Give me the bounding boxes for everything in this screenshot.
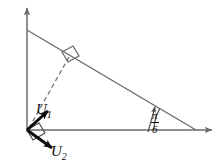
angle-label-numerator: π xyxy=(151,110,159,122)
vector-label-u1: U1 xyxy=(36,101,52,120)
vector-label-u2: U2 xyxy=(51,143,67,162)
vector-u2 xyxy=(27,130,52,148)
angle-label-denominator: 6 xyxy=(151,123,159,135)
vector-label-u1-name: U xyxy=(36,101,47,117)
figure-canvas xyxy=(0,0,223,168)
geometry-figure: U1 U2 π 6 xyxy=(0,0,223,168)
vector-label-u1-subscript: 1 xyxy=(47,109,52,120)
angle-label-pi-over-six: π 6 xyxy=(151,110,159,135)
hypotenuse xyxy=(27,30,196,130)
vector-label-u2-subscript: 2 xyxy=(62,151,67,162)
vector-label-u2-name: U xyxy=(51,143,62,159)
